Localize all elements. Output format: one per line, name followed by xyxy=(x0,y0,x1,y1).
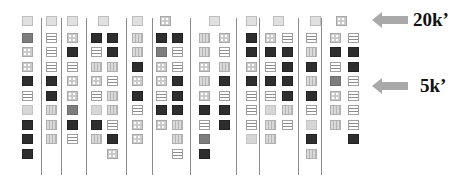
lane-divider xyxy=(190,18,191,175)
band-square xyxy=(46,120,57,130)
band-square xyxy=(172,120,183,130)
band-square xyxy=(199,62,210,72)
band-square xyxy=(67,47,78,57)
band-square xyxy=(246,105,257,115)
band-square xyxy=(67,105,78,115)
well-square xyxy=(46,16,57,26)
band-square xyxy=(282,105,293,115)
band-square xyxy=(172,134,183,144)
band-square xyxy=(306,91,317,101)
band-square xyxy=(22,120,33,130)
band-square xyxy=(22,76,33,86)
band-square xyxy=(199,91,210,101)
band-square xyxy=(282,91,293,101)
band-square xyxy=(107,120,118,130)
band-square xyxy=(219,91,230,101)
band-square xyxy=(132,62,143,72)
band-square xyxy=(22,149,33,159)
band-square xyxy=(107,91,118,101)
well-square xyxy=(310,16,321,26)
well-square xyxy=(336,16,347,26)
band-square xyxy=(172,149,183,159)
band-square xyxy=(91,76,102,86)
band-square xyxy=(46,134,57,144)
band-square xyxy=(348,105,359,115)
band-square xyxy=(306,149,317,159)
well-square xyxy=(273,16,284,26)
band-square xyxy=(22,105,33,115)
band-square xyxy=(67,33,78,43)
band-square xyxy=(330,76,341,86)
band-square xyxy=(22,47,33,57)
band-square xyxy=(306,120,317,130)
band-square xyxy=(265,47,276,57)
band-square xyxy=(348,33,359,43)
band-square xyxy=(132,91,143,101)
band-square xyxy=(265,76,276,86)
band-square xyxy=(330,105,341,115)
well-square xyxy=(98,16,109,26)
band-square xyxy=(282,33,293,43)
band-square xyxy=(46,91,57,101)
band-square xyxy=(246,33,257,43)
band-square xyxy=(156,105,167,115)
band-square xyxy=(156,47,167,57)
band-square xyxy=(306,62,317,72)
band-square xyxy=(199,105,210,115)
band-square xyxy=(330,47,341,57)
band-square xyxy=(91,120,102,130)
band-square xyxy=(219,105,230,115)
lane-divider xyxy=(321,18,322,175)
band-square xyxy=(348,134,359,144)
band-square xyxy=(91,134,102,144)
lane-divider xyxy=(259,18,260,175)
size-label-20k: 20k’ xyxy=(413,9,449,31)
well-square xyxy=(246,16,257,26)
lane-divider xyxy=(126,18,127,175)
well-square xyxy=(160,16,171,26)
band-square xyxy=(107,149,118,159)
band-square xyxy=(306,134,317,144)
band-square xyxy=(67,91,78,101)
band-square xyxy=(132,47,143,57)
band-square xyxy=(199,76,210,86)
well-square xyxy=(22,16,33,26)
band-square xyxy=(219,62,230,72)
band-square xyxy=(282,62,293,72)
band-square xyxy=(219,33,230,43)
band-square xyxy=(172,62,183,72)
size-label-5k: 5k’ xyxy=(420,75,446,97)
band-square xyxy=(330,91,341,101)
band-square xyxy=(219,120,230,130)
band-square xyxy=(306,105,317,115)
band-square xyxy=(199,120,210,130)
lane-divider xyxy=(152,18,153,175)
band-square xyxy=(330,120,341,130)
band-square xyxy=(348,76,359,86)
lane-divider xyxy=(61,18,62,175)
band-square xyxy=(91,62,102,72)
band-square xyxy=(156,62,167,72)
band-square xyxy=(199,149,210,159)
band-square xyxy=(132,76,143,86)
band-square xyxy=(156,33,167,43)
well-square xyxy=(67,16,78,26)
lane-divider xyxy=(41,18,42,175)
band-square xyxy=(219,47,230,57)
band-square xyxy=(156,76,167,86)
band-square xyxy=(46,62,57,72)
band-square xyxy=(282,47,293,57)
band-square xyxy=(91,33,102,43)
band-square xyxy=(91,105,102,115)
band-square xyxy=(265,134,276,144)
band-square xyxy=(246,120,257,130)
band-square xyxy=(246,47,257,57)
band-square xyxy=(107,76,118,86)
band-square xyxy=(348,47,359,57)
band-square xyxy=(348,91,359,101)
band-square xyxy=(172,33,183,43)
band-square xyxy=(67,134,78,144)
band-square xyxy=(348,62,359,72)
band-square xyxy=(22,33,33,43)
band-square xyxy=(107,62,118,72)
